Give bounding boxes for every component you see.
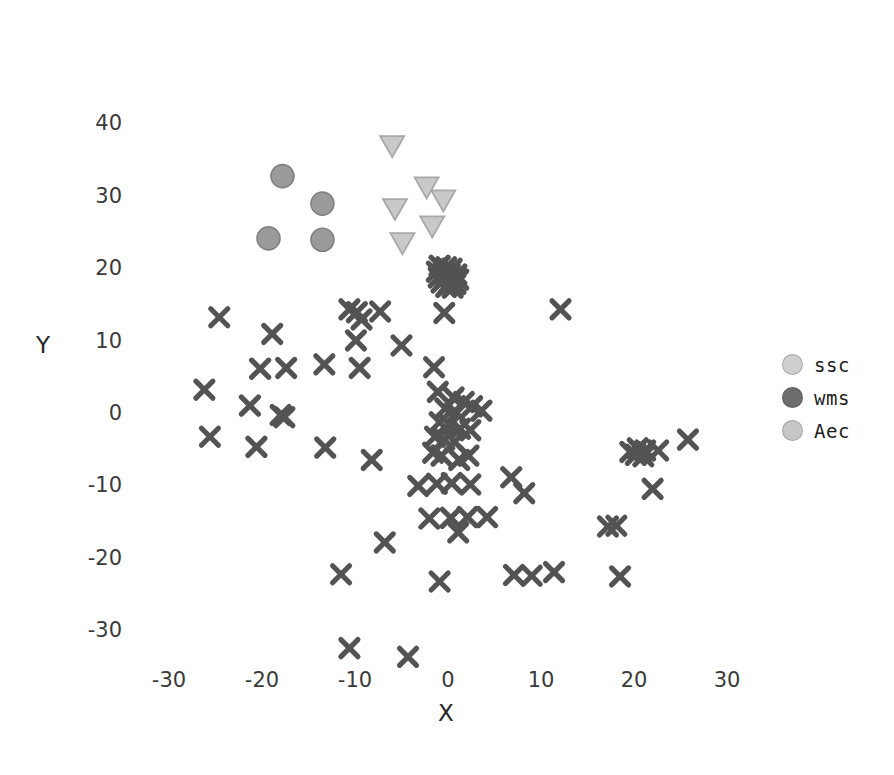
data-point-x bbox=[479, 509, 496, 526]
data-point-x bbox=[443, 260, 460, 277]
y-tick-label: 30 bbox=[58, 184, 122, 208]
data-point-x bbox=[353, 311, 370, 328]
data-point-x bbox=[425, 444, 442, 461]
legend-item[interactable]: ssc bbox=[782, 348, 882, 381]
y-tick-label: -10 bbox=[58, 473, 122, 497]
y-axis-label: Y bbox=[36, 332, 50, 358]
data-point-x bbox=[503, 469, 520, 486]
data-point-x bbox=[438, 278, 455, 295]
data-point-x bbox=[448, 266, 465, 283]
data-point-x bbox=[400, 648, 417, 665]
data-point-x bbox=[435, 265, 452, 282]
scatter-plot-figure: Y X -30-20-10010203040 -30-20-100102030 … bbox=[0, 0, 894, 775]
data-point-x bbox=[410, 477, 427, 494]
data-point-circle bbox=[257, 227, 280, 250]
legend: ssc wms Aec bbox=[782, 348, 882, 447]
data-point-x bbox=[516, 485, 533, 502]
legend-label-wms: wms bbox=[814, 387, 850, 409]
data-point-x bbox=[431, 573, 448, 590]
data-point-x bbox=[428, 475, 445, 492]
data-point-x bbox=[347, 332, 364, 349]
legend-swatch-wms bbox=[782, 387, 803, 408]
x-tick-label: -20 bbox=[227, 668, 297, 692]
legend-swatch-Aec bbox=[782, 420, 803, 441]
data-point-x bbox=[441, 417, 458, 434]
data-point-x bbox=[552, 301, 569, 318]
data-point-x bbox=[627, 446, 644, 463]
data-point-x bbox=[372, 303, 389, 320]
data-point-x bbox=[462, 422, 479, 439]
data-point-triangle bbox=[380, 136, 404, 157]
legend-item[interactable]: Aec bbox=[782, 414, 882, 447]
data-point-x bbox=[637, 442, 654, 459]
x-tick-label: 30 bbox=[692, 668, 762, 692]
y-tick-label: 10 bbox=[58, 329, 122, 353]
data-point-x bbox=[446, 433, 463, 450]
x-tick-label: 20 bbox=[599, 668, 669, 692]
data-point-x bbox=[252, 360, 269, 377]
data-point-triangle bbox=[420, 216, 444, 237]
data-point-x bbox=[363, 451, 380, 468]
data-point-x bbox=[437, 400, 454, 417]
legend-swatch-ssc bbox=[782, 354, 803, 375]
data-point-circle bbox=[311, 228, 334, 251]
data-point-triangle bbox=[390, 233, 414, 254]
data-point-x bbox=[272, 407, 289, 424]
x-tick-label: -30 bbox=[134, 668, 204, 692]
data-point-x bbox=[393, 337, 410, 354]
y-tick-label: -30 bbox=[58, 618, 122, 642]
data-point-x bbox=[278, 359, 295, 376]
data-point-x bbox=[341, 640, 358, 657]
data-point-x bbox=[348, 304, 365, 321]
data-point-x bbox=[431, 257, 448, 274]
legend-item[interactable]: wms bbox=[782, 381, 882, 414]
y-tick-label: 40 bbox=[58, 111, 122, 135]
data-point-x bbox=[376, 534, 393, 551]
legend-label-Aec: Aec bbox=[814, 420, 850, 442]
data-point-x bbox=[462, 476, 479, 493]
data-point-x bbox=[426, 428, 443, 445]
data-point-x bbox=[679, 431, 696, 448]
data-point-x bbox=[443, 270, 460, 287]
data-point-x bbox=[448, 404, 465, 421]
data-point-x bbox=[351, 359, 368, 376]
data-point-x bbox=[431, 414, 448, 431]
data-point-x bbox=[429, 383, 446, 400]
data-point-x bbox=[608, 517, 625, 534]
plot-area bbox=[0, 0, 894, 775]
data-point-x bbox=[523, 567, 540, 584]
y-tick-label: 0 bbox=[58, 401, 122, 425]
data-point-x bbox=[629, 440, 646, 457]
data-point-x bbox=[211, 309, 228, 326]
data-point-x bbox=[452, 420, 469, 437]
legend-label-ssc: ssc bbox=[814, 354, 850, 376]
data-point-x bbox=[546, 564, 563, 581]
data-point-x bbox=[438, 259, 455, 276]
data-point-triangle bbox=[431, 190, 455, 211]
data-point-x bbox=[447, 275, 464, 292]
data-point-x bbox=[650, 442, 667, 459]
x-tick-label: 10 bbox=[506, 668, 576, 692]
data-point-x bbox=[444, 279, 461, 296]
x-tick-label: -10 bbox=[320, 668, 390, 692]
data-point-x bbox=[506, 567, 523, 584]
data-point-x bbox=[421, 510, 438, 527]
x-axis-label: X bbox=[438, 700, 454, 726]
data-point-triangle bbox=[415, 177, 439, 198]
data-point-x bbox=[459, 509, 476, 526]
data-point-x bbox=[433, 447, 450, 464]
data-point-x bbox=[460, 447, 477, 464]
data-point-x bbox=[426, 359, 443, 376]
x-tick-label: 0 bbox=[413, 668, 483, 692]
data-point-x bbox=[635, 448, 652, 465]
data-point-x bbox=[436, 304, 453, 321]
data-point-x bbox=[333, 566, 350, 583]
data-point-x bbox=[196, 381, 213, 398]
data-point-x bbox=[316, 356, 333, 373]
data-point-x bbox=[428, 263, 445, 280]
data-point-x bbox=[437, 270, 454, 287]
data-point-x bbox=[440, 275, 457, 292]
data-point-x bbox=[451, 451, 468, 468]
data-point-x bbox=[644, 480, 661, 497]
data-point-x bbox=[433, 274, 450, 291]
